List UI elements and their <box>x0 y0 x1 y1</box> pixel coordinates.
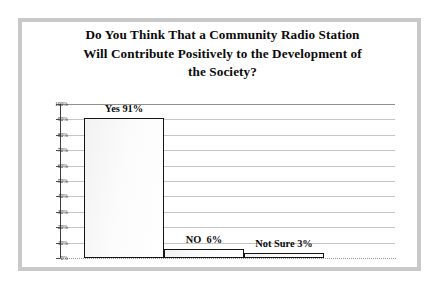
y-axis-tick-label-10: 10% <box>34 240 68 246</box>
y-axis-tick-mark-10 <box>56 243 60 244</box>
y-axis-tick-mark-80 <box>56 135 60 136</box>
y-axis-tick-mark-0 <box>56 258 60 259</box>
y-axis-tick-label-70: 70% <box>34 147 68 153</box>
y-axis-tick-label-50: 50% <box>34 178 68 184</box>
y-axis-tick-label-100: 100% <box>34 101 68 107</box>
y-axis-tick-label-30: 30% <box>34 209 68 215</box>
y-axis-tick-mark-20 <box>56 227 60 228</box>
y-axis-tick-label-90: 90% <box>34 116 68 122</box>
chart-screenshot: Do You Think That a Community Radio Stat… <box>0 0 439 295</box>
bar-yes <box>84 118 164 258</box>
y-axis-tick-mark-40 <box>56 196 60 197</box>
y-axis-tick-label-20: 20% <box>34 224 68 230</box>
chart-title: Do You Think That a Community Radio Stat… <box>50 26 395 82</box>
y-axis-tick-mark-100 <box>56 104 60 105</box>
y-axis-tick-mark-50 <box>56 181 60 182</box>
y-axis-tick-mark-70 <box>56 150 60 151</box>
x-axis-baseline <box>60 258 396 259</box>
y-axis-tick-label-60: 60% <box>34 163 68 169</box>
y-axis-tick-label-80: 80% <box>34 132 68 138</box>
chart-title-line-1: Do You Think That a Community Radio Stat… <box>50 26 395 45</box>
bar-value-label-yes: Yes 91% <box>105 103 143 114</box>
y-axis-tick-label-0: 0% <box>34 255 68 261</box>
bar-not-sure <box>244 253 324 258</box>
bar-value-label-not-sure: Not Sure 3% <box>255 238 313 249</box>
chart-title-line-2: Will Contribute Positively to the Develo… <box>50 45 395 64</box>
y-axis-tick-label-40: 40% <box>34 193 68 199</box>
plot-wrapper: 0%10%20%30%40%50%60%70%80%90%100% Yes 91… <box>32 100 404 266</box>
chart-title-line-3: the Society? <box>50 63 395 82</box>
bar-no <box>164 249 244 258</box>
y-axis-tick-mark-30 <box>56 212 60 213</box>
bar-value-label-no: NO 6% <box>186 234 222 245</box>
y-axis-tick-mark-90 <box>56 119 60 120</box>
y-axis-tick-mark-60 <box>56 166 60 167</box>
